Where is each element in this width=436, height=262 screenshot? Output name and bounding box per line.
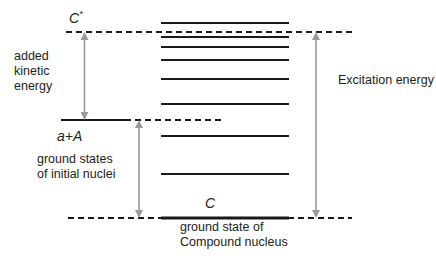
- label-line: Compound nucleus: [180, 235, 288, 250]
- compound-ground-symbol: C: [205, 196, 215, 211]
- excited-asterisk: *: [79, 9, 83, 19]
- excitation-energy-label: Excitation energy: [338, 73, 434, 88]
- label-line: ground state of: [180, 220, 288, 235]
- compound-excited-symbol: C: [69, 10, 79, 26]
- label-line: of initial nuclei: [37, 167, 116, 182]
- label-line: added: [14, 49, 52, 64]
- added-kinetic-energy-label: added kinetic energy: [14, 49, 52, 94]
- compound-levels: [161, 23, 289, 174]
- label-line: energy: [14, 79, 52, 94]
- initial-nuclei-label: a+A: [57, 129, 82, 144]
- ground-state-compound-label: ground state of Compound nucleus: [180, 220, 288, 250]
- compound-excited-label: C*: [69, 7, 83, 26]
- label-line: kinetic: [14, 64, 52, 79]
- label-line: ground states: [37, 152, 116, 167]
- ground-states-initial-label: ground states of initial nuclei: [37, 152, 116, 182]
